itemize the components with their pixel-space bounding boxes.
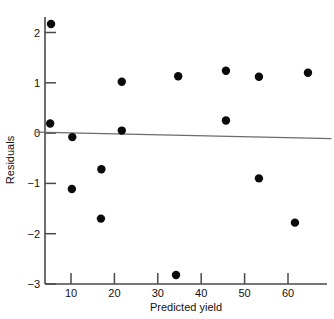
x-tick-label: 50 bbox=[238, 287, 250, 299]
zero-reference-line bbox=[36, 132, 331, 139]
y-tick-label: 2 bbox=[34, 27, 40, 39]
x-tick-label: 20 bbox=[108, 287, 120, 299]
data-point bbox=[97, 165, 105, 173]
data-point bbox=[97, 214, 105, 222]
y-axis-tick-labels: 210−1−2−3 bbox=[27, 27, 40, 291]
x-tick-label: 30 bbox=[152, 287, 164, 299]
data-point bbox=[118, 126, 126, 134]
y-tick-label: −1 bbox=[27, 177, 40, 189]
data-point bbox=[47, 20, 55, 28]
y-axis-title: Residuals bbox=[4, 135, 16, 184]
data-point bbox=[172, 271, 180, 279]
data-point bbox=[291, 218, 299, 226]
data-point bbox=[118, 78, 126, 86]
data-point-group bbox=[46, 20, 312, 279]
x-tick-label: 40 bbox=[195, 287, 207, 299]
x-tick-label: 10 bbox=[65, 287, 77, 299]
data-point bbox=[304, 69, 312, 77]
y-tick-label: −2 bbox=[27, 228, 40, 240]
x-tick-label: 60 bbox=[282, 287, 294, 299]
y-tick-label: 0 bbox=[34, 127, 40, 139]
data-point bbox=[174, 72, 182, 80]
data-point bbox=[222, 116, 230, 124]
x-axis-title: Predicted yield bbox=[150, 301, 222, 313]
y-axis-ticks bbox=[45, 33, 56, 285]
data-point bbox=[68, 133, 76, 141]
data-point bbox=[46, 119, 54, 127]
data-point bbox=[222, 67, 230, 75]
data-point bbox=[68, 185, 76, 193]
x-axis-tick-labels: 102030405060 bbox=[65, 287, 294, 299]
residual-scatter-chart: 210−1−2−3 102030405060 Predicted yield R… bbox=[0, 0, 334, 319]
chart-canvas: 210−1−2−3 102030405060 Predicted yield R… bbox=[0, 0, 334, 319]
data-point bbox=[255, 73, 263, 81]
data-point bbox=[255, 174, 263, 182]
y-tick-label: 1 bbox=[34, 77, 40, 89]
plot-area: 210−1−2−3 102030405060 bbox=[27, 17, 331, 299]
y-tick-label: −3 bbox=[27, 278, 40, 290]
